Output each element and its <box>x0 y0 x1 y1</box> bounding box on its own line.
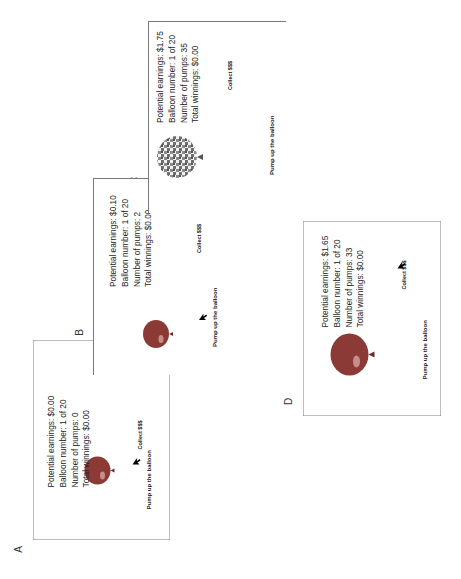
cursor-arrow-icon <box>397 260 407 270</box>
number-of-pumps: Number of pumps: 33 <box>343 236 355 328</box>
balloon-number: Balloon number: 1 of 20 <box>57 396 69 488</box>
panel-label-a: A <box>13 546 24 553</box>
total-winnings: Total winnings: $0.00 <box>190 31 202 123</box>
stats-block: Potential earnings: $1.75 Balloon number… <box>155 31 202 123</box>
cursor-arrow-icon <box>132 456 142 466</box>
balloon-number: Balloon number: 1 of 20 <box>331 236 343 328</box>
pump-balloon-button[interactable]: Pump up the balloon <box>422 320 428 379</box>
balloon-icon <box>330 330 376 380</box>
number-of-pumps: Number of pumps: 0 <box>69 396 81 488</box>
potential-earnings: Potential earnings: $0.00 <box>46 396 58 488</box>
bart-screen-c: Pump up the balloon Potential earnings: … <box>149 22 286 213</box>
panel-d: Pump up the balloon Potential earnings: … <box>303 221 441 416</box>
panel-label-b: B <box>74 329 85 336</box>
total-winnings: Total winnings: $0.00 <box>81 396 93 488</box>
potential-earnings: Potential earnings: $1.75 <box>155 31 167 123</box>
stats-block: Potential earnings: $0.00 Balloon number… <box>46 396 93 488</box>
panel-label-d: D <box>283 398 294 405</box>
exploded-balloon-icon <box>155 133 205 181</box>
total-winnings: Total winnings: $0.00 <box>355 236 367 328</box>
pump-balloon-button[interactable]: Pump up the balloon <box>269 115 275 174</box>
bart-screen-d: Pump up the balloon Potential earnings: … <box>304 222 441 416</box>
stats-block: Potential earnings: $1.65 Balloon number… <box>320 236 367 328</box>
number-of-pumps: Number of pumps: 35 <box>178 31 190 123</box>
number-of-pumps: Number of pumps: 2 <box>131 195 143 287</box>
potential-earnings: Potential earnings: $1.65 <box>320 236 332 328</box>
balloon-icon <box>142 317 174 351</box>
balloon-number: Balloon number: 1 of 20 <box>119 195 131 287</box>
balloon-number: Balloon number: 1 of 20 <box>166 31 178 123</box>
panel-c: Pump up the balloon Potential earnings: … <box>148 21 286 213</box>
collect-button[interactable]: Collect $$$ <box>227 60 233 89</box>
pump-balloon-button[interactable]: Pump up the balloon <box>212 287 218 346</box>
cursor-arrow-icon <box>198 311 208 321</box>
collect-button[interactable]: Collect $$$ <box>196 223 202 252</box>
potential-earnings: Potential earnings: $0.10 <box>108 195 120 287</box>
pump-balloon-button[interactable]: Pump up the balloon <box>146 450 152 509</box>
collect-button[interactable]: Collect $$$ <box>137 420 143 449</box>
